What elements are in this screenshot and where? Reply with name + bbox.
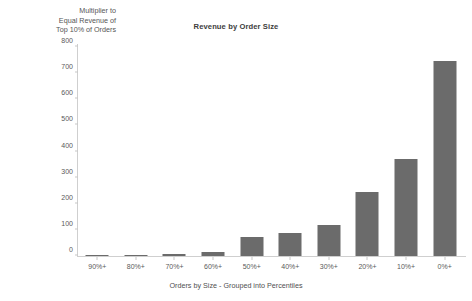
bar: [317, 225, 340, 256]
y-tick-label: 200: [61, 193, 73, 200]
bar-group: 30%+: [310, 47, 349, 256]
y-tick-label: 400: [61, 141, 73, 148]
x-axis-title: Orders by Size - Grouped into Percentile…: [0, 281, 472, 290]
bar: [240, 237, 263, 256]
x-tick-mark: [444, 257, 445, 260]
bar: [163, 254, 186, 256]
bar-group: 20%+: [348, 47, 387, 256]
bars-layer: 90%+80%+70%+60%+50%+40%+30%+20%+10%+0%+: [78, 47, 464, 256]
x-tick-label: 10%+: [397, 263, 415, 270]
bar: [86, 255, 109, 256]
x-tick-label: 20%+: [358, 263, 376, 270]
y-tick-label: 600: [61, 89, 73, 96]
x-tick-mark: [290, 257, 291, 260]
bar-chart: Multiplier to Equal Revenue of Top 10% o…: [0, 0, 472, 301]
bar-group: 70%+: [155, 47, 194, 256]
bar: [433, 61, 456, 256]
bar: [279, 233, 302, 256]
x-tick-mark: [97, 257, 98, 260]
bar-group: 40%+: [271, 47, 310, 256]
x-tick-mark: [135, 257, 136, 260]
y-tick-label: 300: [61, 167, 73, 174]
bar-group: 80%+: [117, 47, 156, 256]
x-tick-mark: [328, 257, 329, 260]
y-tick-label: 700: [61, 63, 73, 70]
x-tick-mark: [213, 257, 214, 260]
x-tick-label: 40%+: [281, 263, 299, 270]
bar: [202, 252, 225, 256]
bar-group: 10%+: [387, 47, 426, 256]
bar-group: 50%+: [232, 47, 271, 256]
bar-group: 60%+: [194, 47, 233, 256]
x-tick-mark: [174, 257, 175, 260]
bar: [395, 159, 418, 256]
x-tick-mark: [406, 257, 407, 260]
y-tick-label: 800: [61, 37, 73, 44]
bar: [124, 255, 147, 256]
y-tick-label: 100: [61, 219, 73, 226]
x-tick-label: 50%+: [243, 263, 261, 270]
x-tick-label: 80%+: [127, 263, 145, 270]
chart-title: Revenue by Order Size: [0, 22, 472, 31]
bar-group: 90%+: [78, 47, 117, 256]
x-tick-label: 70%+: [165, 263, 183, 270]
x-tick-label: 90%+: [88, 263, 106, 270]
x-tick-label: 30%+: [320, 263, 338, 270]
y-tick-label: 500: [61, 115, 73, 122]
x-tick-label: 0%+: [438, 263, 452, 270]
bar-group: 0%+: [425, 47, 464, 256]
bar: [356, 192, 379, 256]
x-tick-mark: [251, 257, 252, 260]
x-tick-mark: [367, 257, 368, 260]
y-tick-label: 0: [69, 246, 73, 253]
x-tick-label: 60%+: [204, 263, 222, 270]
plot-area: 0100200300400500600700800 90%+80%+70%+60…: [78, 47, 464, 256]
